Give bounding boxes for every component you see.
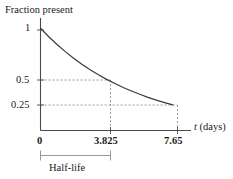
decay-curve [41, 28, 173, 105]
x-tick-label-0: 0 [37, 136, 42, 147]
x-tick-label-3-825: 3.825 [94, 136, 118, 147]
x-tick-label-7-65: 7.65 [164, 136, 182, 147]
x-axis-title: t (days) [194, 122, 226, 133]
x-axis-variable: t [194, 121, 197, 132]
chart-plot-area [0, 0, 233, 179]
y-axis-title: Fraction present [5, 5, 73, 16]
y-tick-label-0-5: 0.5 [16, 75, 29, 86]
x-axis-units: (days) [200, 121, 226, 132]
y-tick-label-1: 1 [25, 23, 30, 34]
y-tick-label-0-25: 0.25 [11, 100, 29, 111]
decay-chart-figure: Fraction present 1 0.5 0.25 0 3.825 7.65… [0, 0, 233, 179]
half-life-bracket-label: Half-life [49, 163, 85, 174]
